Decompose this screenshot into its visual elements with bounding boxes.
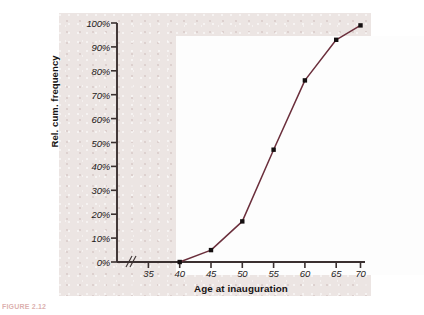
data-point xyxy=(178,260,182,264)
x-tick-label-70: 70 xyxy=(355,268,365,279)
data-point xyxy=(271,148,275,152)
y-tick-label-50: 50% xyxy=(92,137,110,148)
x-tick-label-55: 55 xyxy=(269,268,279,279)
y-tick-label-70: 70% xyxy=(92,89,110,100)
y-axis-tick-labels: 0% 10% 20% 30% 40% 50% 60% 70% 80% 90% 1… xyxy=(72,0,110,315)
x-axis-title: Age at inauguration xyxy=(117,283,365,294)
y-tick-label-100: 100% xyxy=(87,18,111,29)
x-tick-label-65: 65 xyxy=(331,268,341,279)
y-tick-label-60: 60% xyxy=(92,113,110,124)
figure-caption: FIGURE 2.12 xyxy=(2,303,46,310)
x-tick-label-50: 50 xyxy=(237,268,247,279)
x-tick-label-35: 35 xyxy=(143,268,153,279)
data-point xyxy=(303,78,307,82)
data-point xyxy=(209,248,213,252)
x-tick-label-45: 45 xyxy=(206,268,216,279)
y-tick-label-90: 90% xyxy=(92,41,110,52)
x-tick-label-60: 60 xyxy=(300,268,310,279)
data-line xyxy=(180,25,361,262)
y-tick-label-30: 30% xyxy=(92,185,110,196)
data-point xyxy=(334,38,338,42)
y-tick-label-80: 80% xyxy=(92,65,110,76)
y-axis-title: Rel. cum. frequency xyxy=(49,55,60,147)
y-tick-label-20: 20% xyxy=(92,209,110,220)
data-point xyxy=(240,219,244,223)
x-tick-label-40: 40 xyxy=(175,268,185,279)
y-tick-label-0: 0% xyxy=(97,257,110,268)
y-tick-label-10: 10% xyxy=(92,233,110,244)
data-point xyxy=(358,23,362,27)
y-tick-label-40: 40% xyxy=(92,161,110,172)
data-point-markers xyxy=(178,23,363,264)
